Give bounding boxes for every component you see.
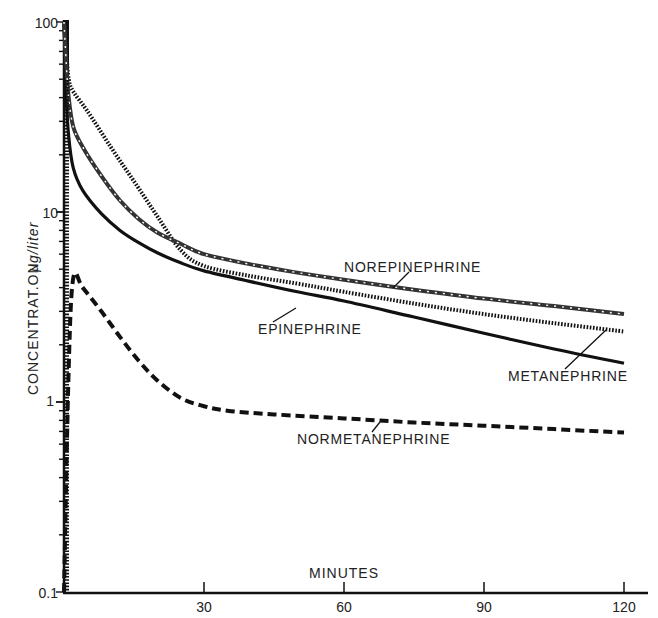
y-axis-title: CONCENTRAT.ON [25,262,41,395]
series-layer [63,20,624,592]
epinephrine-line [64,22,624,332]
metanephrine-line [64,22,624,363]
normetanephrine-label: NORMETANEPHRINE [297,431,450,447]
metanephrine-label: METANEPHRINE [508,368,628,384]
x-tick-90: 90 [476,599,492,615]
y-tick-10: 10 [42,205,58,221]
x-tick-120: 120 [612,599,636,615]
x-axis-ticks [204,582,624,593]
x-tick-60: 60 [336,599,352,615]
y-tick-0-1: 0.1 [39,585,59,601]
norepinephrine-label: NOREPINEPHRINE [344,259,481,275]
epinephrine-leader [273,308,296,322]
x-tick-30: 30 [196,599,212,615]
y-tick-100: 100 [35,15,59,31]
y-axis-units: µg/liter [25,221,41,272]
epinephrine-label: EPINEPHRINE [258,321,362,337]
y-tick-1: 1 [46,393,54,409]
chart-canvas: 100 10 1 0.1 30 60 90 120 MINUTES CONCEN… [0,0,658,618]
metanephrine-leader [565,330,606,369]
x-axis-title: MINUTES [309,565,379,581]
